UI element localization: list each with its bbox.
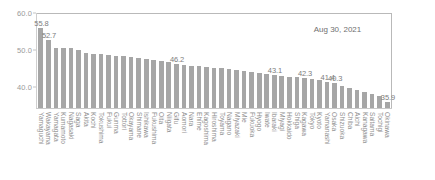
x-axis-tick-label: Oita (157, 112, 164, 124)
x-axis-tick-label: Aichi (353, 112, 360, 126)
x-axis-tick-label: Tottori (120, 112, 127, 130)
x-axis-tick-label: Tochigi (376, 112, 383, 133)
bar[interactable] (279, 76, 284, 108)
x-axis-tick-label: Miyazaki (233, 112, 240, 138)
bar[interactable] (317, 80, 322, 108)
bar[interactable] (166, 62, 171, 108)
bar[interactable] (54, 48, 59, 108)
y-axis-tick-mark (33, 13, 36, 14)
x-axis-tick-label: Nagasaki (67, 112, 74, 140)
bar[interactable] (287, 77, 292, 108)
x-axis-tick-label: Kumamoto (59, 112, 66, 144)
bar-slot (361, 13, 369, 108)
bar[interactable] (249, 72, 254, 108)
bar[interactable] (182, 65, 187, 108)
x-axis-tick-label: Tokyo (308, 112, 315, 129)
x-axis-tick-label: Nagano (225, 112, 232, 135)
x-tick-slot: Aichi (353, 112, 361, 178)
bar[interactable] (204, 67, 209, 108)
bar-slot: 55.8 (37, 13, 45, 108)
x-axis-tick-label: Mie (240, 112, 247, 123)
bar[interactable] (355, 90, 360, 108)
bar[interactable] (370, 94, 375, 108)
x-axis-tick-label: Saga (74, 112, 81, 127)
bar[interactable] (99, 54, 104, 108)
x-tick-slot: Mie (240, 112, 248, 178)
bar-slot (142, 13, 150, 108)
x-tick-slot: Ibaraki (270, 112, 278, 178)
bar[interactable] (151, 60, 156, 108)
bar-slot (240, 13, 248, 108)
bar[interactable] (114, 56, 119, 108)
x-tick-slot: Hiroshima (210, 112, 218, 178)
bar-slot (82, 13, 90, 108)
bar-slot (225, 13, 233, 108)
bar[interactable] (234, 70, 239, 108)
x-axis-tick-label: Gifu (172, 112, 179, 124)
bar-slot: 42.3 (301, 13, 309, 108)
bar[interactable] (61, 48, 66, 108)
bar[interactable] (227, 69, 232, 108)
x-axis-tick-label: Shiga (293, 112, 300, 129)
bar[interactable] (325, 82, 330, 109)
x-axis-tick-label: Okayama (127, 112, 134, 140)
bar-slot: 52.7 (45, 13, 53, 108)
bar[interactable] (212, 68, 217, 109)
bar[interactable] (121, 56, 126, 108)
x-axis-tick-label: Saitama (368, 112, 375, 136)
x-axis-tick-label: Wakayama (44, 112, 51, 145)
bar[interactable] (38, 28, 43, 108)
bar[interactable] (91, 54, 96, 108)
x-axis-tick-label: Kyoto (315, 112, 322, 129)
bar-slot (75, 13, 83, 108)
x-axis-tick-label: Kagoshima (202, 112, 209, 145)
bar[interactable] (385, 102, 390, 108)
bar-slot (127, 13, 135, 108)
bar[interactable] (129, 57, 134, 108)
bar-slot (60, 13, 68, 108)
bar[interactable] (197, 66, 202, 108)
x-tick-slot: Gunma (112, 112, 120, 178)
bar[interactable] (302, 78, 307, 108)
bar[interactable] (295, 77, 300, 108)
bar[interactable] (159, 61, 164, 108)
bar-value-label: 35.9 (381, 93, 395, 102)
bar[interactable] (69, 48, 74, 108)
y-axis-tick-mark (33, 87, 36, 88)
bar[interactable] (310, 79, 315, 108)
x-axis-tick-label: Fukushima (150, 112, 157, 144)
x-axis-tick-label: Osaka (330, 112, 337, 131)
bar[interactable] (136, 58, 141, 108)
bar[interactable] (257, 73, 262, 108)
bar[interactable] (332, 83, 337, 108)
bar[interactable] (264, 74, 269, 108)
bar[interactable] (106, 55, 111, 108)
x-axis-tick-label: Iwate (263, 112, 270, 128)
x-axis-tick-label: Ishikawa (142, 112, 149, 138)
bar-slot (368, 13, 376, 108)
bar[interactable] (84, 53, 89, 108)
bar-slot (286, 13, 294, 108)
bar[interactable] (76, 50, 81, 108)
bar[interactable] (272, 75, 277, 108)
x-axis-tick-label: Yamanashi (323, 112, 330, 145)
x-tick-slot: Kagawa (301, 112, 309, 178)
x-tick-slot: Oita (158, 112, 166, 178)
x-tick-slot: Nagano (225, 112, 233, 178)
x-axis-tick-label: Kochi (89, 112, 96, 129)
bar-slot (180, 13, 188, 108)
bar[interactable] (189, 66, 194, 108)
bar[interactable] (347, 88, 352, 108)
bar[interactable] (362, 92, 367, 108)
x-axis-tick-label: Yamagata (52, 112, 59, 142)
bar[interactable] (144, 59, 149, 108)
x-axis-tick-label: Toyama (218, 112, 225, 135)
x-axis-tick-label: Okinawa (383, 112, 390, 138)
bar[interactable] (242, 71, 247, 108)
bar[interactable] (174, 64, 179, 108)
bar[interactable] (340, 86, 345, 108)
bar-slot (248, 13, 256, 108)
bar[interactable] (219, 68, 224, 108)
bar[interactable] (46, 40, 51, 108)
x-axis-tick-label: Fukui (105, 112, 112, 128)
